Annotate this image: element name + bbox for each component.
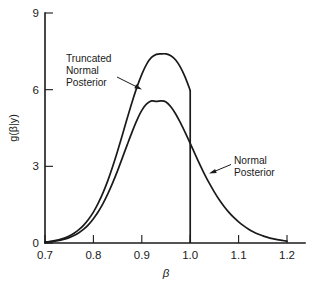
annotation-truncated-line-2: Normal	[66, 65, 99, 76]
y-axis-tick-labels: 0369	[33, 7, 39, 249]
y-tick-label: 9	[33, 7, 39, 19]
y-axis-title: g(β|y)	[7, 114, 19, 142]
y-axis-ticks	[45, 13, 53, 243]
y-tick-label: 6	[33, 84, 39, 96]
annotation-normal-line-2: Posterior	[234, 167, 275, 178]
x-tick-label: 1.2	[279, 249, 295, 261]
figure-container: 0369 0.70.80.91.01.11.2 β g(β|y) Truncat…	[0, 0, 317, 284]
y-tick-label: 3	[33, 160, 39, 172]
annotation-normal-arrowhead-icon	[209, 169, 217, 174]
annotation-truncated-normal-posterior: Truncated Normal Posterior	[66, 53, 142, 90]
annotation-truncated-line-3: Posterior	[66, 77, 107, 88]
y-tick-label: 0	[33, 237, 39, 249]
x-tick-label: 0.7	[37, 249, 53, 261]
x-tick-label: 0.8	[85, 249, 101, 261]
x-tick-label: 0.9	[134, 249, 150, 261]
y-axis-title-group: g(β|y)	[7, 114, 19, 142]
x-tick-label: 1.1	[231, 249, 247, 261]
x-tick-label: 1.0	[182, 249, 198, 261]
x-axis-title: β	[162, 267, 170, 279]
x-axis-tick-labels: 0.70.80.91.01.11.2	[37, 249, 295, 261]
annotation-truncated-leader-line	[117, 77, 138, 88]
annotation-normal-posterior: Normal Posterior	[209, 155, 275, 178]
annotation-normal-line-1: Normal	[234, 155, 267, 166]
annotation-truncated-line-1: Truncated	[66, 53, 112, 64]
x-axis-ticks	[45, 235, 287, 243]
posterior-density-chart: 0369 0.70.80.91.01.11.2 β g(β|y) Truncat…	[0, 0, 317, 284]
